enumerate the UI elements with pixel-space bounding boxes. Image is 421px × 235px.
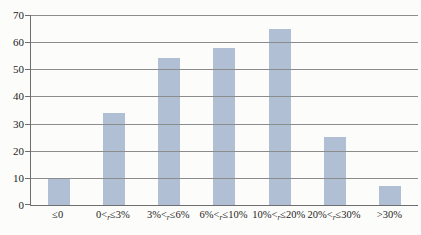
y-axis-labels: 010203040506070 [0, 15, 26, 205]
bars-container [31, 15, 418, 205]
x-tick-label-5: 20%<r≤30% [306, 209, 361, 222]
y-tick-label-60: 60 [13, 37, 24, 48]
x-tick-label-6: >30% [362, 209, 417, 222]
y-tick-label-0: 0 [19, 200, 25, 211]
y-tick-mark-60 [25, 42, 31, 43]
y-tick-mark-50 [25, 69, 31, 70]
bar-20%<r≤30% [324, 137, 346, 205]
bar-6%<r≤10% [213, 48, 235, 205]
plot-area [30, 15, 418, 206]
bar-slot [142, 15, 197, 205]
bar-slot [252, 15, 307, 205]
y-tick-mark-70 [25, 15, 31, 16]
y-tick-label-20: 20 [13, 145, 24, 156]
x-tick-label-2: 3%<r≤6% [141, 209, 196, 222]
x-axis-labels: ≤00<r≤3%3%<r≤6%6%<r≤10%10%<r≤20%20%<r≤30… [30, 209, 417, 222]
y-tick-mark-40 [25, 96, 31, 97]
bar-slot [197, 15, 252, 205]
bar-slot [363, 15, 418, 205]
gridline-70 [31, 15, 418, 16]
bar-slot [86, 15, 141, 205]
bar-3%<r≤6% [158, 58, 180, 205]
y-tick-label-70: 70 [13, 10, 24, 21]
x-tick-label-1: 0<r≤3% [85, 209, 140, 222]
bar-slot [31, 15, 86, 205]
y-tick-label-30: 30 [13, 118, 24, 129]
x-tick-label-4: 10%<r≤20% [251, 209, 306, 222]
x-tick-label-0: ≤0 [30, 209, 85, 222]
bar-chart-figure: 010203040506070 ≤00<r≤3%3%<r≤6%6%<r≤10%1… [0, 0, 421, 235]
gridline-40 [31, 96, 418, 97]
y-tick-mark-20 [25, 151, 31, 152]
y-tick-mark-0 [25, 204, 31, 205]
gridline-30 [31, 124, 418, 125]
gridline-20 [31, 151, 418, 152]
bar->30% [379, 186, 401, 205]
y-tick-mark-30 [25, 124, 31, 125]
bar-0<r≤3% [103, 113, 125, 205]
y-tick-label-40: 40 [13, 91, 24, 102]
gridline-50 [31, 69, 418, 70]
x-tick-label-3: 6%<r≤10% [196, 209, 251, 222]
bar-slot [307, 15, 362, 205]
y-tick-mark-10 [25, 178, 31, 179]
y-tick-label-10: 10 [13, 172, 24, 183]
bar-≤0 [48, 178, 70, 205]
gridline-60 [31, 42, 418, 43]
y-tick-label-50: 50 [13, 64, 24, 75]
gridline-10 [31, 178, 418, 179]
